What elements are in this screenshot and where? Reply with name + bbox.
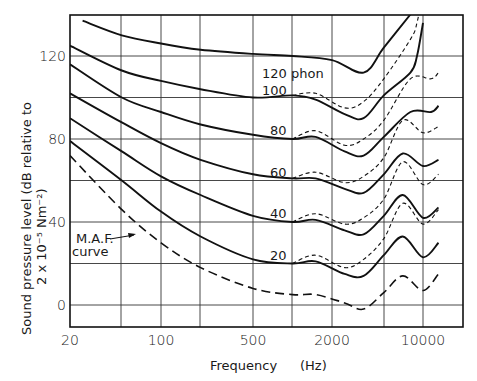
- equal-loudness-chart: 20100500200010000 04080120 Frequency (Hz…: [0, 0, 477, 381]
- curve-60-phon: [70, 93, 439, 193]
- alt-curve-80-phon: [293, 73, 439, 146]
- curve-120-phon: [83, 15, 411, 73]
- label-60-phon: 60: [270, 165, 287, 180]
- y-axis-label-line1: Sound pressure level (dB relative to: [19, 102, 34, 335]
- curve-100-phon: [70, 23, 423, 120]
- x-axis-unit: (Hz): [300, 358, 327, 373]
- label-80-phon: 80: [270, 123, 287, 138]
- x-tick-100: 100: [148, 332, 175, 348]
- label-40-phon: 40: [270, 206, 287, 221]
- x-tick-10000: 10000: [401, 332, 446, 348]
- curve-20-phon: [70, 141, 439, 277]
- curve-m-a-f-curve: [70, 156, 439, 310]
- plot-frame: [70, 15, 463, 327]
- curve-80-phon: [70, 64, 439, 156]
- alt-curve-100-phon: [293, 0, 424, 108]
- x-tick-labels: 20100500200010000: [61, 332, 445, 348]
- x-axis-label: Frequency: [210, 358, 277, 373]
- x-tick-500: 500: [240, 332, 267, 348]
- y-axis-label-line2: 2 x 10⁻⁵ Nm⁻²): [34, 188, 49, 285]
- y-tick-40: 40: [48, 214, 66, 230]
- alt-curve-60-phon: [293, 120, 439, 183]
- grid-lines: [70, 15, 463, 327]
- y-tick-120: 120: [39, 48, 66, 64]
- maf-arrow: [110, 233, 136, 239]
- y-tick-0: 0: [57, 297, 66, 313]
- alt-curve-20-phon: [293, 203, 439, 268]
- x-tick-20: 20: [61, 332, 79, 348]
- label-120-phon: 120 phon: [262, 66, 324, 81]
- curve-layer: [70, 0, 439, 309]
- label-20-phon: 20: [270, 248, 287, 263]
- x-tick-2000: 2000: [314, 332, 350, 348]
- y-tick-80: 80: [48, 131, 66, 147]
- label-100-phon: 100: [262, 83, 287, 98]
- label-maf-curve: curve: [72, 244, 108, 259]
